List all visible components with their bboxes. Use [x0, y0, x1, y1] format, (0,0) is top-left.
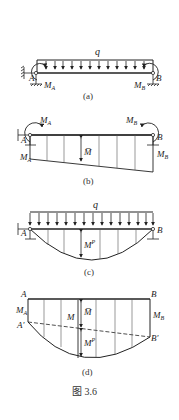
- moment-label-ma: MA: [39, 115, 52, 126]
- distributed-load-q: [30, 212, 153, 225]
- ordinate-mb: MB: [156, 149, 169, 160]
- panel-a: q A B MA MB (a): [21, 46, 162, 101]
- load-label-q: q: [93, 199, 98, 210]
- label-b-prime: B′: [151, 333, 159, 343]
- label-a: A: [20, 289, 27, 299]
- node-b: B: [156, 73, 162, 83]
- panel-c: q: [18, 199, 163, 277]
- m-total-label: M: [66, 312, 75, 322]
- node-b: B: [157, 225, 163, 235]
- node-a: A: [28, 73, 35, 83]
- panel-b: M̅ MA MB A B MA MB (b): [18, 115, 169, 186]
- node-b: B: [157, 132, 163, 142]
- mp-label: MP: [83, 239, 96, 250]
- moment-diagram-mbar: [30, 135, 153, 172]
- moment-arc-a: [25, 123, 40, 142]
- figure-3-6: q A B MA MB (a): [0, 0, 179, 420]
- panel-a-label: (a): [83, 91, 93, 101]
- label-b: B: [151, 289, 157, 299]
- panel-c-label: (c): [84, 267, 94, 277]
- mp-label: MP: [83, 337, 96, 348]
- node-a: A: [20, 135, 27, 145]
- panel-d: A B MA MB A′ M̅ B′ M M̅ MP (d): [15, 289, 165, 377]
- load-label-q: q: [95, 46, 100, 57]
- ordinate-ma: MA: [15, 305, 28, 316]
- moment-label-mb: MB: [125, 115, 138, 126]
- figure-caption: 图 3.6: [72, 386, 97, 397]
- moment-label-mb: MB: [133, 80, 146, 91]
- node-a: A: [20, 228, 27, 238]
- moment-label-ma: MA: [43, 80, 56, 91]
- ordinate-mb: MB: [152, 310, 165, 321]
- supports: [18, 129, 159, 145]
- distributed-load-q: [37, 60, 153, 72]
- mbar-label: M̅: [83, 147, 92, 157]
- panel-d-label: (d): [82, 367, 93, 377]
- mbar-label: M̅: [83, 307, 92, 317]
- label-a-prime: A′: [16, 320, 25, 330]
- supports: [18, 223, 159, 239]
- panel-b-label: (b): [83, 176, 94, 186]
